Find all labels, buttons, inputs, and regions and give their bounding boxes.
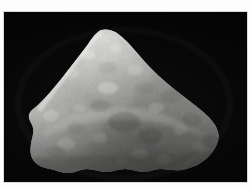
rock-specimen-image <box>4 12 247 182</box>
caption-area <box>4 183 247 190</box>
photo-frame <box>4 12 247 182</box>
specimen-description: Wedge-shaped light gray granular rock fr… <box>0 0 1 1</box>
screenshot-root: Wedge-shaped light gray granular rock fr… <box>0 0 251 190</box>
specimen-container <box>4 12 247 182</box>
caption-text <box>4 183 5 184</box>
specimen-body <box>4 12 247 182</box>
